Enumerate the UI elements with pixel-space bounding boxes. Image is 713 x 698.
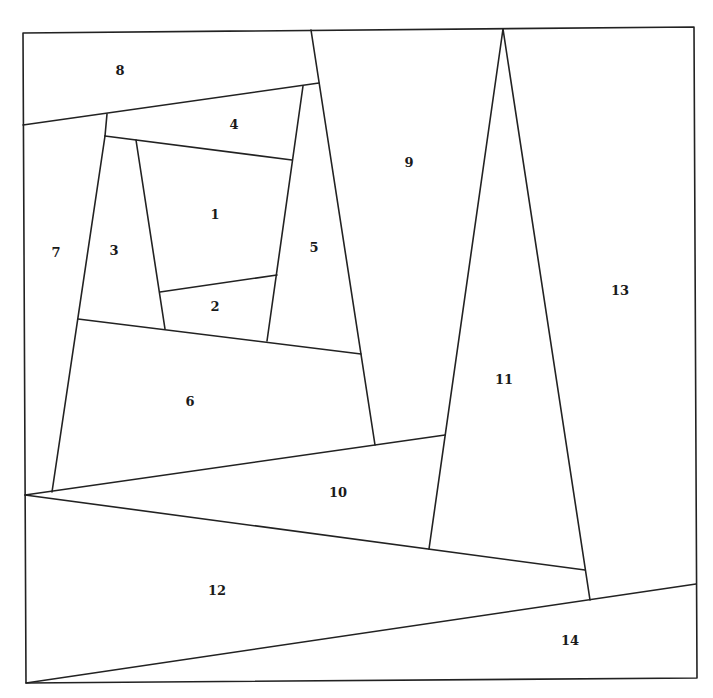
- boundary-line-s6-top: [78, 319, 361, 354]
- piece-label-12: 12: [208, 583, 226, 598]
- boundary-line-s11-right: [503, 29, 590, 600]
- boundary-line-s10-top: [25, 435, 445, 495]
- piece-boundaries: [23, 29, 696, 683]
- piece-label-5: 5: [309, 240, 318, 255]
- piece-label-9: 9: [404, 155, 413, 170]
- boundary-line-s10-bottom: [25, 495, 585, 570]
- piece-label-7: 7: [51, 245, 60, 260]
- piece-label-11: 11: [495, 372, 513, 387]
- boundary-line-s4-top-left: [105, 114, 107, 136]
- piece-label-14: 14: [561, 633, 579, 648]
- piece-label-1: 1: [210, 207, 219, 222]
- quilt-diagram: 1234567891011121314: [0, 0, 713, 698]
- piece-label-6: 6: [185, 394, 194, 409]
- boundary-line-s8-bottom: [23, 83, 319, 125]
- outer-frame: [23, 27, 697, 683]
- boundary-line-s14-top: [26, 584, 696, 683]
- piece-label-4: 4: [229, 117, 238, 132]
- piece-label-3: 3: [109, 243, 118, 258]
- piece-label-10: 10: [329, 485, 347, 500]
- boundary-line-s11-left: [429, 29, 503, 549]
- piece-label-13: 13: [611, 283, 629, 298]
- boundary-line-s5-left: [267, 86, 303, 341]
- boundary-line-s9-left: [311, 30, 375, 445]
- piece-label-2: 2: [210, 299, 219, 314]
- piece-label-8: 8: [115, 63, 124, 78]
- boundary-line-s1-left: [136, 140, 165, 329]
- boundary-line-s1-bottom: [160, 275, 277, 292]
- boundary-line-s4-bottom: [105, 136, 292, 160]
- boundary-line-s3-left: [52, 136, 105, 492]
